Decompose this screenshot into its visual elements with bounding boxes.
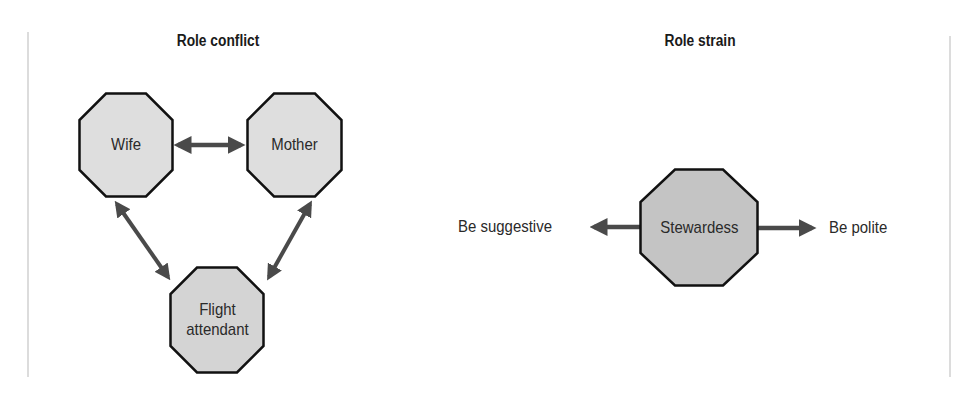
node-label: Mother [271, 135, 318, 155]
node-label: Flight attendant [186, 300, 248, 340]
node-mother: Mother [246, 92, 343, 198]
node-label: Stewardess [660, 218, 738, 238]
wife-flight-attendant-arrow [117, 204, 168, 277]
node-flight-attendant: Flight attendant [169, 266, 265, 374]
outcome-be-suggestive: Be suggestive [458, 217, 552, 237]
node-wife: Wife [78, 92, 174, 198]
mother-flight-attendant-arrow [269, 204, 310, 277]
role-strain-title: Role strain [648, 32, 751, 50]
outcome-be-polite: Be polite [829, 218, 887, 238]
arrows-layer [0, 0, 971, 403]
node-stewardess: Stewardess [639, 168, 759, 287]
node-label: Wife [111, 135, 141, 155]
